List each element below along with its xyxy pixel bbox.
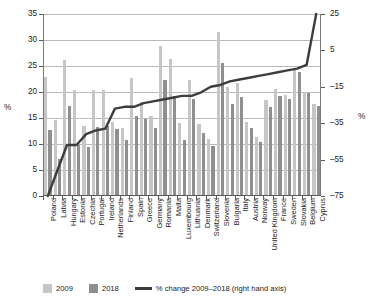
y-axis-right-tick-mark [321,87,325,88]
y-axis-left-title: % [4,103,11,112]
x-axis-tick-mark [62,196,63,200]
chart-legend: 20092018% change 2009–2018 (right hand a… [43,281,343,295]
x-axis-tick-mark [120,196,121,200]
legend-item[interactable]: 2018 [89,284,119,293]
x-axis-tick-label: Spain [137,198,144,217]
y-axis-right-tick-label: –75 [330,192,360,200]
x-axis-tick-mark [53,196,54,200]
legend-line-swatch [135,287,152,290]
x-axis-tick-label: Norway [261,198,268,223]
y-axis-left-tick-label: 10 [11,140,37,148]
legend-item[interactable]: 2009 [43,284,73,293]
x-axis-tick-mark [206,196,207,200]
x-axis-tick-mark [254,196,255,200]
x-axis-tick-label: Finland [127,198,134,222]
x-axis-tick-mark [216,196,217,200]
x-axis-tick-label: Bulgaria [233,198,240,225]
y-axis-right-tick-label: 5 [330,46,360,54]
legend-color-swatch [43,284,52,293]
x-axis-tick-mark [283,196,284,200]
x-axis-tick-mark [158,196,159,200]
x-axis-tick-label: Italy [242,198,249,212]
x-axis-tick-mark [81,196,82,200]
x-axis-tick-label: Denmark [204,198,211,228]
y-axis-right-tick-mark [321,14,325,15]
x-axis-tick-label: Romania [165,198,172,228]
x-axis-tick-mark [177,196,178,200]
x-axis-tick-label: Latvia [60,198,67,218]
x-axis-tick-mark [292,196,293,200]
x-axis-tick-label: Hungary [70,198,77,226]
y-axis-right-tick-mark [321,160,325,161]
x-axis-tick-mark [302,196,303,200]
x-axis-tick-mark [196,196,197,200]
x-axis-tick-mark [244,196,245,200]
x-axis-tick-label: Germany [156,198,163,228]
legend-label: 2009 [56,284,73,293]
x-axis-tick-label: Malta [175,198,182,216]
x-axis-tick-label: United Kingdom [271,198,278,251]
y-axis-left-tick-label: 30 [11,36,37,44]
y-axis-right-tick-mark [321,50,325,51]
x-axis-tick-label: Sweden [290,198,297,225]
x-axis-tick-label: Poland [50,198,57,221]
legend-color-swatch [89,284,98,293]
y-axis-right-tick-label: 25 [330,10,360,18]
x-axis-tick-mark [72,196,73,200]
x-axis-tick-mark [225,196,226,200]
plot-area [43,14,321,196]
x-axis-tick-mark [91,196,92,200]
x-axis-tick-label: Greece [146,198,153,222]
x-axis-tick-label: Slovenia [223,198,230,226]
x-axis-category-labels: PolandLatviaHungaryEstoniaCzechiaPortuga… [43,196,321,274]
x-axis-tick-label: France [280,198,287,221]
x-axis-tick-label: Cyprus [319,198,326,221]
y-axis-left-tick-label: 35 [11,10,37,18]
x-axis-tick-mark [110,196,111,200]
x-axis-tick-mark [148,196,149,200]
y-axis-right-tick-label: –35 [330,119,360,127]
x-axis-tick-mark [101,196,102,200]
x-axis-tick-label: Estonia [79,198,86,223]
x-axis-tick-label: Lithuania [194,198,201,228]
y-axis-right-tick-label: –15 [330,83,360,91]
x-axis-tick-label: Portugal [98,198,105,226]
x-axis-tick-label: Ireland [108,198,115,221]
x-axis-tick-mark [129,196,130,200]
x-axis-tick-mark [139,196,140,200]
legend-item[interactable]: % change 2009–2018 (right hand axis) [135,284,286,293]
y-axis-left-tick-label: 20 [11,88,37,96]
y-axis-right-tick-label: –55 [330,156,360,164]
y-axis-right-tick-mark [321,123,325,124]
y-axis-right-tick-mark [321,196,325,197]
x-axis-tick-label: Austria [252,198,259,221]
x-axis-tick-mark [187,196,188,200]
plot-frame [43,14,321,196]
y-axis-left-tick-label: 0 [11,192,37,200]
x-axis-tick-label: Netherlands [117,198,124,238]
x-axis-tick-mark [311,196,312,200]
x-axis-tick-label: Switzerland [213,198,220,236]
legend-label: % change 2009–2018 (right hand axis) [156,284,286,293]
x-axis-tick-label: Slovakia [300,198,307,226]
legend-label: 2018 [102,284,119,293]
y-axis-left-tick-label: 5 [11,166,37,174]
y-axis-left-tick-label: 25 [11,62,37,70]
y-axis-left-tick-label: 15 [11,114,37,122]
x-axis-tick-label: Belgium [309,198,316,225]
x-axis-tick-mark [263,196,264,200]
x-axis-tick-mark [43,196,44,200]
x-axis-tick-mark [273,196,274,200]
x-axis-tick-mark [168,196,169,200]
x-axis-tick-label: Luxembourg [185,198,192,239]
chart-container: % % 05101520253035 –75–55–35–15525 Polan… [0,0,375,305]
x-axis-tick-label: Czechia [89,198,96,225]
x-axis-tick-mark [235,196,236,200]
